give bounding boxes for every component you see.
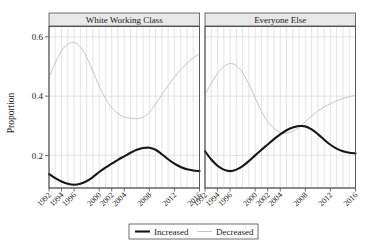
panel-2: Everyone Else [205, 13, 356, 188]
x-tick-label: 2004 [266, 191, 284, 209]
x-axis: 1992199419962000200220042008201220161992… [35, 188, 359, 208]
y-tick-label: 0.6 [32, 32, 44, 42]
y-axis-label-text: Proportion [6, 92, 16, 133]
x-tick-label: 2004 [110, 191, 128, 209]
x-tick-label: 2008 [136, 191, 154, 209]
faceted-line-chart: Proportion 0.20.40.6 White Working Class… [0, 0, 379, 247]
x-tick-label: 2016 [342, 191, 360, 209]
y-axis-label: Proportion [6, 92, 16, 133]
x-tick-label: 2012 [161, 191, 179, 209]
y-tick-label: 0.4 [32, 91, 44, 101]
x-tick-label: 2012 [317, 191, 335, 209]
x-tick-label: 1996 [216, 191, 234, 209]
y-axis: 0.20.40.6 [32, 32, 49, 161]
panel-title: White Working Class [86, 15, 164, 25]
chart-legend: IncreasedDecreased [129, 224, 258, 239]
legend-label: Decreased [216, 227, 254, 237]
y-tick-label: 0.2 [32, 151, 43, 161]
panels: White Working ClassEveryone Else [49, 13, 356, 188]
panel-1: White Working Class [49, 13, 200, 188]
x-tick-label: 2008 [292, 191, 310, 209]
panel-title: Everyone Else [254, 15, 306, 25]
chart-figure: Proportion 0.20.40.6 White Working Class… [0, 0, 379, 247]
x-tick-label: 1996 [60, 191, 78, 209]
legend-label: Increased [154, 227, 189, 237]
